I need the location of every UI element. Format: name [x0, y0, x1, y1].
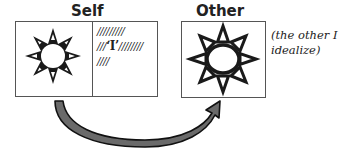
curved-arrow-icon [55, 101, 220, 147]
diagram-graphics [0, 0, 341, 152]
other-sun-icon [190, 26, 256, 92]
self-sun-icon [25, 28, 81, 84]
